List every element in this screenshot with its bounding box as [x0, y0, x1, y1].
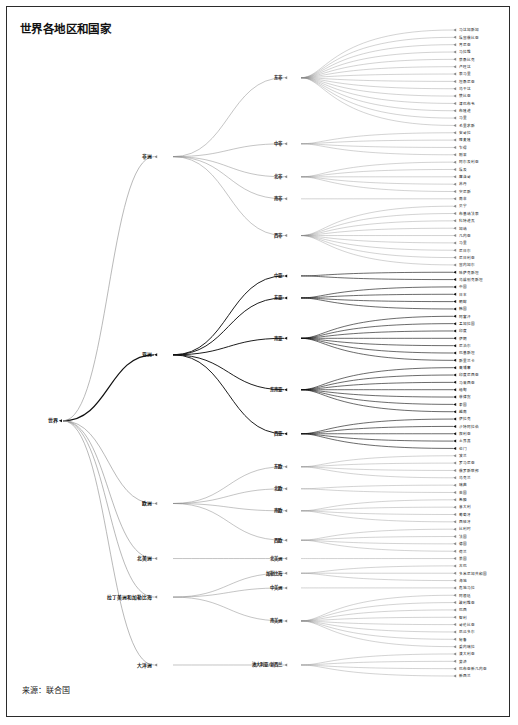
node-label-country-4-0-1[interactable]: 多米尼加共和国: [459, 571, 487, 576]
node-label-country-1-4-0[interactable]: 伊拉克: [459, 416, 471, 421]
node-label-country-0-1-2[interactable]: 乍得: [459, 145, 467, 150]
node-label-country-5-0-0[interactable]: 澳大利亚: [459, 651, 475, 656]
node-label-country-1-4-2[interactable]: 叙利亚: [459, 431, 471, 436]
node-label-country-1-1-0[interactable]: 中国: [459, 284, 467, 289]
node-label-country-0-0-5[interactable]: 卢旺达: [459, 64, 471, 69]
node-label-region-1[interactable]: 亚洲: [142, 351, 152, 358]
node-label-country-0-0-7[interactable]: 坦桑尼亚: [459, 79, 475, 84]
node-label-sub-0-1[interactable]: 中非: [274, 140, 283, 147]
node-label-country-1-2-3[interactable]: 伊朗: [459, 336, 467, 341]
node-label-country-0-4-3[interactable]: 加纳: [459, 226, 467, 231]
node-label-country-0-2-1[interactable]: 埃及: [459, 167, 467, 172]
node-label-country-0-1-1[interactable]: 喀麦隆: [459, 137, 471, 142]
node-label-country-2-2-1[interactable]: 意大利: [459, 504, 471, 509]
node-label-country-0-0-4[interactable]: 莫桑比克: [459, 57, 475, 62]
node-label-country-0-0-13[interactable]: 毛里求斯: [459, 123, 475, 128]
node-label-country-1-4-3[interactable]: 土耳其: [459, 438, 471, 443]
node-label-country-0-2-3[interactable]: 苏丹: [459, 181, 467, 186]
node-label-country-0-0-3[interactable]: 马拉维: [459, 49, 471, 54]
node-label-country-0-2-2[interactable]: 摩洛哥: [459, 174, 471, 179]
node-label-root[interactable]: 世界: [48, 417, 59, 424]
node-label-country-2-1-1[interactable]: 英国: [459, 490, 467, 495]
node-label-country-2-3-2[interactable]: 德国: [459, 541, 467, 546]
node-label-country-4-1-0[interactable]: 危地马拉: [459, 585, 475, 590]
node-label-country-3-0-0[interactable]: 美国: [459, 556, 467, 561]
node-label-country-0-4-5[interactable]: 马里: [459, 240, 467, 245]
node-label-sub-1-0[interactable]: 中亚: [274, 272, 283, 279]
node-label-country-4-2-5[interactable]: 厄瓜多尔: [459, 629, 475, 634]
node-label-country-1-3-1[interactable]: 印度尼西亚: [459, 372, 479, 377]
node-label-country-0-0-12[interactable]: 马里: [459, 115, 467, 120]
node-label-country-1-4-4[interactable]: 也门: [459, 446, 467, 451]
node-label-country-0-0-8[interactable]: 乌干达: [459, 86, 471, 91]
node-label-country-5-0-2[interactable]: 巴布亚新几内亚: [459, 666, 487, 671]
node-label-sub-1-4[interactable]: 西亚: [274, 430, 283, 437]
node-label-country-1-2-6[interactable]: 斯里兰卡: [459, 358, 475, 363]
node-label-country-4-2-2[interactable]: 巴西: [459, 607, 467, 612]
node-label-country-1-4-1[interactable]: 沙特阿拉伯: [459, 424, 479, 429]
node-label-country-2-2-2[interactable]: 葡萄牙: [459, 512, 471, 517]
node-label-country-2-0-2[interactable]: 俄罗斯联邦: [459, 468, 479, 473]
node-label-sub-0-0[interactable]: 东非: [274, 74, 283, 81]
node-label-sub-3-0[interactable]: 北美洲: [270, 555, 283, 562]
node-label-country-1-2-5[interactable]: 巴基斯坦: [459, 350, 475, 355]
node-label-country-0-0-9[interactable]: 赞比亚: [459, 93, 471, 98]
node-label-country-2-2-3[interactable]: 西班牙: [459, 519, 471, 524]
node-label-country-2-0-1[interactable]: 罗马尼亚: [459, 460, 475, 465]
node-label-region-3[interactable]: 北美洲: [137, 555, 152, 562]
node-label-country-1-0-0[interactable]: 哈萨克斯坦: [459, 270, 479, 275]
node-label-country-2-0-3[interactable]: 乌克兰: [459, 475, 471, 480]
node-label-sub-4-2[interactable]: 南美洲: [270, 617, 283, 624]
node-label-country-0-3-0[interactable]: 南非: [459, 196, 467, 201]
node-label-country-4-0-2[interactable]: 海地: [459, 578, 467, 583]
node-label-country-2-3-3[interactable]: 荷兰: [459, 549, 467, 554]
node-label-sub-1-2[interactable]: 南亚: [274, 335, 283, 342]
node-label-country-1-1-1[interactable]: 日本: [459, 292, 467, 297]
node-label-country-1-2-4[interactable]: 尼泊尔: [459, 343, 471, 348]
node-label-country-1-3-4[interactable]: 菲律宾: [459, 394, 471, 399]
node-label-country-0-0-6[interactable]: 索马里: [459, 71, 471, 76]
node-label-country-2-3-1[interactable]: 法国: [459, 534, 467, 539]
node-label-country-0-0-1[interactable]: 埃塞俄比亚: [459, 35, 479, 40]
node-label-country-0-1-0[interactable]: 安哥拉: [459, 130, 471, 135]
node-label-region-4[interactable]: 拉丁美洲和加勒比海: [107, 594, 152, 601]
node-label-country-2-0-0[interactable]: 波兰: [459, 453, 467, 458]
node-label-region-5[interactable]: 大洋洲: [137, 662, 152, 669]
node-label-country-1-2-0[interactable]: 阿富汗: [459, 314, 471, 319]
node-label-sub-0-4[interactable]: 西非: [274, 232, 283, 239]
node-label-country-4-2-1[interactable]: 玻利维亚: [459, 600, 475, 605]
node-label-country-4-2-0[interactable]: 阿根廷: [459, 593, 471, 598]
node-label-country-0-0-2[interactable]: 肯尼亚: [459, 42, 471, 47]
node-label-sub-4-1[interactable]: 中美洲: [270, 584, 283, 591]
node-label-country-1-3-3[interactable]: 缅甸: [459, 387, 467, 392]
node-label-country-0-0-11[interactable]: 布隆迪: [459, 108, 471, 113]
node-label-country-1-3-5[interactable]: 泰国: [459, 402, 467, 407]
node-label-country-0-4-6[interactable]: 尼日尔: [459, 248, 471, 253]
node-label-region-2[interactable]: 欧洲: [142, 500, 152, 507]
node-label-country-1-1-2[interactable]: 朝鲜: [459, 299, 467, 304]
node-label-country-1-3-2[interactable]: 马来西亚: [459, 380, 475, 385]
node-label-country-2-2-0[interactable]: 希腊: [459, 497, 467, 502]
node-label-sub-1-3[interactable]: 东南亚: [270, 386, 283, 393]
node-label-country-5-0-3[interactable]: 新西兰: [459, 673, 471, 678]
node-label-sub-0-3[interactable]: 南非: [274, 195, 283, 202]
node-label-country-4-0-0[interactable]: 古巴: [459, 563, 467, 568]
node-label-sub-5-0[interactable]: 澳大利亚/新西兰: [252, 661, 283, 668]
node-label-country-0-0-10[interactable]: 津巴布韦: [459, 101, 475, 106]
node-label-country-0-2-0[interactable]: 阿尔及利亚: [459, 159, 479, 164]
node-label-country-1-2-2[interactable]: 印度: [459, 328, 467, 333]
node-label-country-0-0-0[interactable]: 马达加斯加: [459, 27, 479, 32]
node-label-country-4-2-4[interactable]: 哥伦比亚: [459, 622, 475, 627]
node-label-country-4-2-6[interactable]: 秘鲁: [459, 637, 467, 642]
node-label-country-1-2-1[interactable]: 孟加拉国: [459, 321, 475, 326]
node-label-region-0[interactable]: 非洲: [142, 153, 152, 160]
node-label-sub-4-0[interactable]: 加勒比海: [265, 570, 283, 577]
node-label-country-0-2-4[interactable]: 突尼斯: [459, 189, 471, 194]
node-label-country-0-4-4[interactable]: 几内亚: [459, 233, 471, 238]
node-label-country-2-3-0[interactable]: 比利时: [459, 526, 471, 531]
node-label-sub-2-0[interactable]: 东欧: [274, 463, 283, 470]
node-label-country-0-4-1[interactable]: 布基纳法索: [459, 211, 479, 216]
node-label-country-0-4-2[interactable]: 科特迪瓦: [459, 218, 475, 223]
node-label-country-0-4-8[interactable]: 塞内加尔: [459, 262, 475, 267]
node-label-country-4-2-3[interactable]: 智利: [459, 615, 467, 620]
